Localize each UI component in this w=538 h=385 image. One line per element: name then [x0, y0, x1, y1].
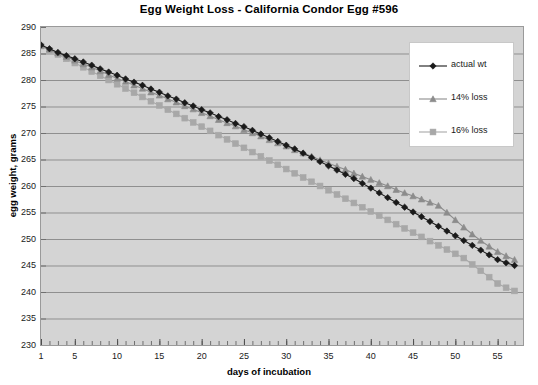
x-axis-tick-label: 35: [317, 352, 341, 361]
legend-label: 14% loss: [448, 92, 488, 102]
x-axis-tick-label: 45: [401, 352, 425, 361]
x-axis-tick-label: 25: [232, 352, 256, 361]
chart-container: Egg Weight Loss - California Condor Egg …: [0, 0, 538, 385]
x-axis-tick-label: 30: [274, 352, 298, 361]
x-axis-tick-label: 15: [147, 352, 171, 361]
legend-label: 16% loss: [448, 125, 488, 135]
x-axis-tick-label: 55: [486, 352, 510, 361]
legend-item-actual-wt[interactable]: actual wt: [418, 57, 514, 71]
x-axis-tick-label: 1: [29, 352, 53, 361]
legend-label: actual wt: [448, 59, 487, 69]
x-axis-tick-label: 40: [359, 352, 383, 361]
legend-marker-triangle-icon: [418, 91, 448, 103]
legend-marker-diamond-icon: [418, 58, 448, 70]
legend-item-14-percent-loss[interactable]: 14% loss: [418, 90, 514, 104]
x-axis-tick-label: 20: [190, 352, 214, 361]
legend-marker-square-icon: [418, 124, 448, 136]
legend-item-16-percent-loss[interactable]: 16% loss: [418, 123, 514, 137]
x-axis-tick-label: 5: [63, 352, 87, 361]
x-axis-tick-label: 10: [105, 352, 129, 361]
x-axis-tick-label: 50: [443, 352, 467, 361]
y-axis-title: egg weight, grams: [7, 106, 18, 246]
x-axis-title: days of incubation: [0, 366, 538, 377]
chart-legend: actual wt 14% loss 16% loss: [409, 42, 514, 147]
